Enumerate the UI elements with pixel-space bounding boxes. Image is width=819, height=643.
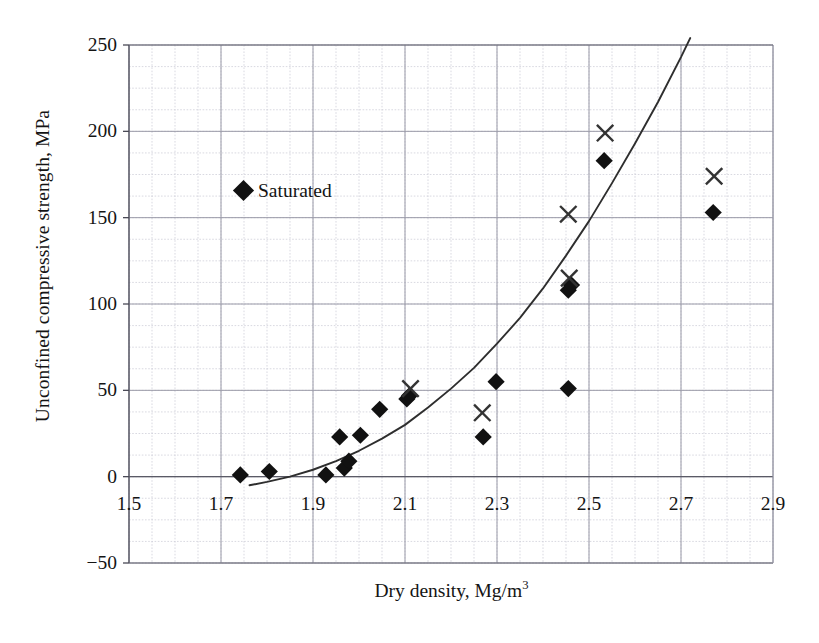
x-tick-label: 1.5: [99, 494, 159, 514]
x-axis-title: Dry density, Mg/m3: [129, 578, 774, 602]
data-point-diamond: [560, 380, 577, 397]
y-tick-label: 150: [47, 208, 117, 228]
legend-diamond-icon: [233, 180, 254, 201]
x-tick-label: 2.7: [651, 494, 711, 514]
x-tick-label: 2.5: [559, 494, 619, 514]
data-point-diamond: [317, 466, 334, 483]
legend: Saturated: [236, 181, 332, 201]
data-point-diamond: [705, 204, 722, 221]
x-axis-title-text: Dry density, Mg/m: [374, 580, 522, 601]
y-axis-tick-labels: −50050100150200250: [47, 45, 117, 563]
x-axis-title-exponent: 3: [522, 578, 528, 592]
data-point-diamond: [371, 401, 388, 418]
data-point-cross: [474, 405, 490, 421]
data-point-diamond: [487, 373, 504, 390]
data-point-diamond: [232, 466, 249, 483]
y-tick-label: 50: [47, 380, 117, 400]
data-point-diamond: [596, 152, 613, 169]
plot-area: [129, 45, 773, 563]
data-point-diamond: [261, 463, 278, 480]
y-tick-label: 100: [47, 294, 117, 314]
data-point-diamond: [331, 428, 348, 445]
y-tick-label: 200: [47, 121, 117, 141]
legend-item-label: Saturated: [258, 181, 332, 201]
x-tick-label: 2.3: [467, 494, 527, 514]
y-tick-label: −50: [47, 553, 117, 573]
x-tick-label: 2.9: [743, 494, 803, 514]
y-tick-label: 0: [47, 467, 117, 487]
fit-curve: [250, 38, 691, 485]
x-tick-label: 1.7: [191, 494, 251, 514]
data-point-diamond: [475, 428, 492, 445]
data-point-cross: [560, 206, 576, 222]
x-axis-tick-labels: 1.51.71.92.12.32.52.72.9: [129, 494, 773, 522]
figure-container: Unconfined compressive strength, MPa −50…: [0, 0, 819, 643]
data-point-cross: [597, 125, 613, 141]
y-tick-label: 250: [47, 35, 117, 55]
data-layer: [129, 45, 773, 563]
data-point-cross: [706, 168, 722, 184]
x-tick-label: 2.1: [375, 494, 435, 514]
data-point-diamond: [352, 427, 369, 444]
x-tick-label: 1.9: [283, 494, 343, 514]
